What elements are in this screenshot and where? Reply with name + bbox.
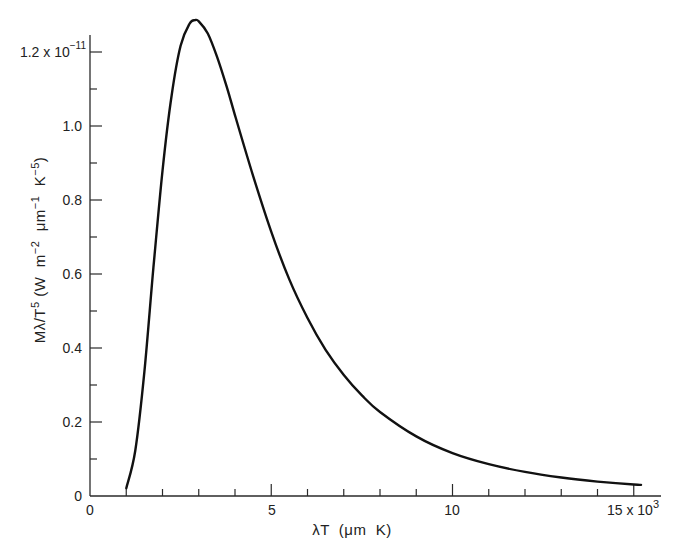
y-exponent: −11 (70, 40, 87, 51)
y-tick-label-1.0: 1.0 (63, 118, 83, 134)
x-exponent: 3 (653, 498, 659, 510)
y-axis-label: Mλ/T5 (W m−2 μm−1 K−5) (29, 157, 48, 344)
axes (90, 35, 661, 496)
svg-text:Mλ/T5 (W m−2 μm−1 K−5): Mλ/T5 (W m−2 μm−1 K−5) (29, 157, 48, 344)
tick-labels: 0 5 10 15 x 103 0 0.2 0.4 0.6 0.8 1.0 1.… (20, 40, 659, 518)
x-tick-label-10: 10 (444, 502, 460, 518)
ticks (90, 52, 634, 496)
x-tick-label-5: 5 (268, 502, 276, 518)
blackbody-curve (126, 20, 641, 488)
y-tick-label-0.2: 0.2 (63, 414, 83, 430)
blackbody-chart: 0 5 10 15 x 103 0 0.2 0.4 0.6 0.8 1.0 1.… (0, 0, 691, 550)
x-tick-label-0: 0 (86, 502, 94, 518)
y-tick-label-0.8: 0.8 (63, 192, 83, 208)
y-tick-label-0: 0 (74, 488, 82, 504)
x-axis-label: λT (μm K) (312, 521, 392, 538)
x-tick-label-15: 15 x 103 (607, 498, 659, 518)
y-tick-label-1.2: 1.2 x 10−11 (20, 40, 86, 60)
y-tick-label-0.6: 0.6 (63, 266, 83, 282)
y-tick-label-0.4: 0.4 (63, 340, 83, 356)
